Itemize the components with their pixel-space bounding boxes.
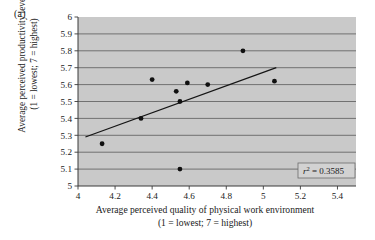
r-squared-annotation: r2 = 0.3585 (298, 163, 355, 178)
y-tick-label: 5.2 (61, 147, 73, 157)
y-tick-label: 5.8 (61, 46, 73, 56)
x-tick-label: 4.8 (221, 191, 233, 201)
x-tick-label: 4.2 (109, 191, 121, 201)
data-point (139, 116, 144, 121)
data-point (150, 77, 155, 82)
data-point (100, 141, 105, 146)
y-tick-label: 5.9 (61, 29, 73, 39)
x-tick-label: 4.6 (183, 191, 195, 201)
data-point (174, 89, 179, 94)
x-tick-label: 4 (76, 191, 81, 201)
y-tick-label: 5.3 (61, 131, 73, 141)
data-point (178, 99, 183, 104)
scatter-plot: 44.24.44.64.855.25.4 55.15.25.35.45.55.6… (0, 0, 375, 240)
data-point (272, 79, 277, 84)
y-tick-label: 6 (67, 12, 72, 22)
r-squared-label: r2 = 0.3585 (303, 165, 345, 177)
y-axis-ticks: 55.15.25.35.45.55.65.75.85.96 (61, 12, 78, 191)
figure-panel-a: (a) Average perceived productivity level… (0, 0, 375, 240)
x-tick-label: 4.4 (146, 191, 158, 201)
y-tick-label: 5.1 (61, 164, 73, 174)
x-tick-label: 5.2 (295, 191, 307, 201)
y-tick-label: 5.7 (61, 63, 73, 73)
data-point (185, 81, 190, 86)
y-tick-label: 5.5 (61, 97, 73, 107)
data-point (205, 82, 210, 87)
y-tick-label: 5 (67, 181, 72, 191)
x-axis-ticks: 44.24.44.64.855.25.4 (76, 186, 344, 201)
y-tick-label: 5.4 (61, 114, 73, 124)
x-tick-label: 5.4 (332, 191, 344, 201)
data-point (241, 48, 246, 53)
y-tick-label: 5.6 (61, 80, 73, 90)
data-point (178, 167, 183, 172)
x-tick-label: 5 (261, 191, 266, 201)
